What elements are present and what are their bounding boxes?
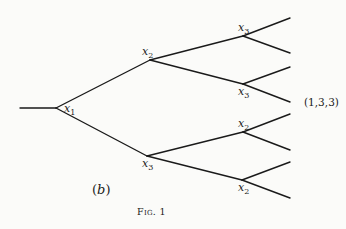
leaf-edge (243, 67, 290, 84)
node-label-n7: x2 (238, 182, 249, 196)
leaf-edge (243, 84, 290, 102)
panel-label: (b) (92, 183, 110, 196)
tree-edge (150, 60, 243, 84)
node-label-n4: x3 (238, 22, 249, 36)
leaf-edge (243, 36, 290, 53)
leaf-edge (243, 132, 290, 150)
node-label-n2: x2 (142, 46, 153, 60)
tree-edge (150, 36, 243, 60)
node-label-n1: x1 (64, 103, 75, 117)
figure-caption: Fig. 1 (137, 207, 166, 217)
tree-edge (147, 132, 243, 156)
game-tree-diagram (0, 0, 346, 229)
leaf-edge (243, 114, 290, 132)
tree-edge (56, 60, 150, 108)
payoff-label: (1,3,3) (304, 97, 339, 108)
tree-edge (147, 156, 242, 180)
node-label-n6: x2 (238, 118, 249, 132)
leaf-edge (243, 18, 290, 36)
node-label-n5: x3 (238, 86, 249, 100)
leaf-edge (242, 162, 290, 180)
node-label-n3: x3 (142, 158, 153, 172)
